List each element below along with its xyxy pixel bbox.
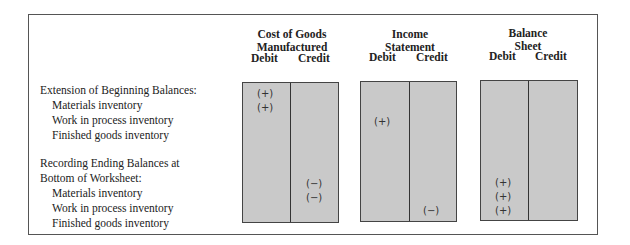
balance-divider (528, 81, 529, 220)
cgm-beg-wip-debit-mark: (+) (257, 102, 273, 113)
cgm-credit-header: Credit (298, 52, 330, 64)
cgm-title-line1: Cost of Goods (240, 28, 344, 41)
income-divider (409, 82, 410, 221)
balance-header: Balance Sheet (476, 27, 580, 52)
end-materials-label: Materials inventory (52, 186, 142, 201)
cgm-end-materials-credit-mark: (−) (306, 178, 322, 189)
cgm-header: Cost of Goods Manufactured (240, 28, 344, 53)
income-end-finished-credit-mark: (−) (423, 205, 439, 216)
balance-end-wip-debit-mark: (+) (495, 191, 511, 202)
end-wip-label: Work in process inventory (52, 201, 173, 216)
section-ending-balances-line2: Bottom of Worksheet: (40, 171, 142, 186)
balance-debit-header: Debit (489, 50, 516, 62)
balance-credit-header: Credit (535, 50, 567, 62)
cgm-divider (290, 83, 291, 222)
cgm-debit-header: Debit (251, 52, 278, 64)
income-debit-header: Debit (369, 51, 396, 63)
income-beg-finished-debit-mark: (+) (374, 116, 390, 127)
income-credit-header: Credit (416, 51, 448, 63)
balance-end-finished-debit-mark: (+) (495, 205, 511, 216)
income-box: (+) (−) (360, 81, 457, 222)
balance-title-line1: Balance (476, 27, 580, 40)
cgm-end-wip-credit-mark: (−) (306, 192, 322, 203)
beg-wip-label: Work in process inventory (52, 113, 173, 128)
beg-finished-label: Finished goods inventory (52, 128, 169, 143)
cgm-box: (+) (+) (−) (−) (242, 82, 339, 223)
balance-end-materials-debit-mark: (+) (495, 177, 511, 188)
income-title-line1: Income (358, 28, 462, 41)
section-ending-balances-line1: Recording Ending Balances at (40, 156, 180, 171)
income-header: Income Statement (358, 28, 462, 53)
section-beginning-balances: Extension of Beginning Balances: (40, 83, 197, 98)
beg-materials-label: Materials inventory (52, 98, 142, 113)
end-finished-label: Finished goods inventory (52, 216, 169, 231)
balance-box: (+) (+) (+) (480, 80, 578, 221)
cgm-beg-materials-debit-mark: (+) (257, 88, 273, 99)
